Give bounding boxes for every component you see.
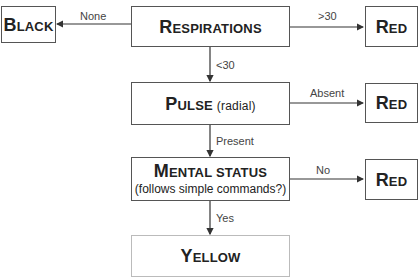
edge-label-none: None	[80, 11, 106, 22]
mental-status-box: MENTAL STATUS (follows simple commands?)	[131, 157, 290, 201]
yellow-label: YELLOW	[180, 247, 240, 265]
red-label: RED	[376, 94, 408, 112]
respirations-box: RESPIRATIONS	[131, 6, 290, 47]
edge-label-under-30: <30	[216, 60, 235, 71]
red-box-respirations: RED	[365, 6, 418, 47]
edge-label-absent: Absent	[310, 88, 344, 99]
red-label: RED	[376, 171, 408, 189]
edge-label-no: No	[316, 165, 330, 176]
pulse-box: PULSE (radial)	[131, 82, 290, 125]
mental-status-sublabel: (follows simple commands?)	[135, 182, 286, 196]
red-label: RED	[376, 18, 408, 36]
red-box-pulse: RED	[365, 83, 418, 123]
pulse-label: PULSE (radial)	[165, 95, 255, 113]
black-label: BLACK	[3, 16, 53, 34]
edge-label-yes: Yes	[216, 213, 234, 224]
red-box-mental: RED	[365, 159, 418, 200]
black-box: BLACK	[1, 6, 56, 43]
respirations-label: RESPIRATIONS	[159, 18, 262, 36]
pulse-sublabel: (radial)	[217, 99, 256, 113]
mental-status-label: MENTAL STATUS	[154, 162, 267, 180]
yellow-box: YELLOW	[131, 235, 290, 277]
edge-label-over-30: >30	[318, 11, 337, 22]
edge-label-present: Present	[216, 136, 254, 147]
